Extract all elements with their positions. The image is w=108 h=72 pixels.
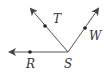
- point-W: [83, 26, 87, 30]
- label-S: S: [64, 57, 72, 71]
- label-T: T: [53, 12, 62, 26]
- label-R: R: [25, 57, 35, 71]
- ray-ST: [31, 9, 68, 52]
- point-R: [28, 50, 32, 54]
- point-T: [43, 24, 47, 28]
- angle-diagram: RTWS: [0, 0, 108, 72]
- label-W: W: [89, 29, 103, 43]
